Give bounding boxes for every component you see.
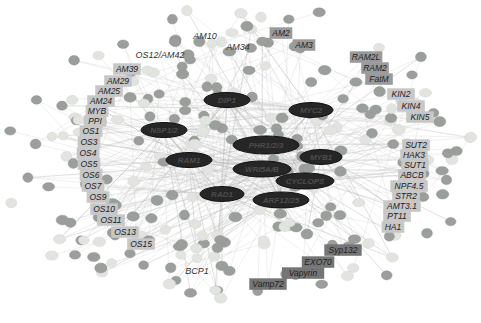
gene-label: RAM2L [350, 51, 383, 63]
network-node [196, 127, 209, 137]
gene-label: OS12/AM42 [135, 50, 184, 60]
gene-label: AM25 [95, 85, 123, 97]
gene-label: KIN4 [397, 100, 425, 112]
gene-label-text: KIN4 [402, 101, 421, 111]
gene-label-text: AM39 [115, 64, 138, 74]
network-node [67, 95, 78, 104]
network-node [160, 225, 170, 234]
gene-label-text: RAM2 [363, 63, 387, 73]
gene-label-text: Syp132 [329, 245, 358, 255]
hub-node-label: ARF12/25 [262, 196, 300, 205]
gene-label-text: BCP1 [185, 266, 209, 276]
gene-label-text: AMT3.1 [386, 201, 417, 211]
network-node [169, 37, 180, 46]
network-node [316, 280, 328, 288]
hub-node-label: DIP1 [218, 96, 236, 105]
network-node [451, 147, 463, 156]
gene-label-text: AM24 [89, 96, 112, 106]
gene-label: RAM2 [361, 62, 389, 74]
gene-label: AM10 [192, 31, 217, 41]
network-node [167, 14, 177, 24]
gene-label-text: OS15 [130, 239, 152, 249]
gene-label: OS4 [77, 147, 100, 159]
network-node [370, 105, 382, 114]
gene-label-text: OS5 [80, 159, 97, 169]
gene-label-text: AM34 [225, 42, 250, 52]
network-node [127, 212, 139, 221]
network-node [210, 286, 221, 294]
gene-label-text: PPI [88, 116, 102, 126]
network-node [341, 271, 353, 280]
gene-label-text: OS7 [84, 181, 101, 191]
gene-label-text: OS3 [80, 137, 97, 147]
hub-node-label: MYB1 [310, 153, 333, 162]
network-node [141, 162, 152, 171]
network-node [436, 190, 448, 200]
network-node [301, 229, 313, 239]
gene-label-text: Vapyrin [289, 268, 318, 278]
gene-label-text: OS4 [79, 148, 96, 158]
network-node [229, 212, 242, 222]
network-node [180, 98, 191, 107]
gene-label-text: OS9 [89, 192, 106, 202]
network-node [212, 243, 223, 252]
network-node [141, 66, 153, 74]
network-node [283, 218, 295, 227]
network-node [95, 263, 107, 273]
network-node [6, 198, 17, 208]
gene-label-text: OS13 [114, 227, 136, 237]
network-node [388, 140, 399, 149]
network-node [436, 167, 449, 176]
network-node [284, 15, 295, 24]
network-node [145, 112, 155, 122]
network-node [47, 132, 57, 141]
network-node [43, 183, 55, 191]
network-node [179, 106, 190, 114]
network-node [348, 263, 359, 272]
gene-label-text: OS11 [100, 215, 121, 225]
network-node [88, 252, 101, 261]
network-node [445, 217, 456, 225]
gene-label: Vapyrin [282, 267, 324, 279]
network-node [465, 132, 476, 142]
network-node [215, 236, 226, 244]
network-node [57, 101, 68, 110]
network-node [58, 132, 68, 140]
network-node [334, 211, 346, 220]
network-node [258, 236, 269, 245]
network-node [254, 125, 267, 134]
gene-label: FatM [365, 73, 393, 85]
gene-label: AM2 [270, 27, 293, 39]
network-node [111, 115, 124, 124]
network-node [56, 215, 69, 225]
gene-label: SUT1 [401, 159, 429, 171]
gene-label: AMT3.1 [383, 200, 420, 212]
edge [317, 121, 390, 122]
gene-label-text: KIN5 [411, 112, 430, 122]
gene-label-text: AM29 [106, 76, 129, 86]
network-node [68, 159, 78, 169]
network-figure: DIP1MYC2NSP1/2PHR1/2/3RAM1MYB1WRI5A/BCYC… [0, 0, 481, 323]
network-node [30, 139, 41, 149]
gene-label: KIN2 [387, 88, 415, 100]
gene-label-text: Vamp72 [252, 279, 284, 289]
gene-label-text: AM3 [294, 40, 313, 50]
network-node [139, 261, 149, 270]
network-node [434, 117, 446, 127]
network-node [387, 104, 397, 114]
network-node [241, 21, 253, 31]
gene-label-text: AM2 [271, 28, 290, 38]
network-node [31, 96, 42, 105]
network-node [257, 37, 269, 46]
hub-node-label: MYC2 [300, 106, 323, 115]
hub-node-label: RAM1 [178, 156, 201, 165]
network-node [256, 12, 267, 22]
network-node [169, 114, 180, 123]
network-node [166, 190, 178, 200]
network-node [318, 65, 331, 75]
hub-node-label: WRI5A/B [245, 165, 279, 174]
network-node [374, 43, 385, 52]
network-node [69, 55, 80, 65]
network-node [306, 77, 317, 86]
gene-label: BCP1 [185, 266, 209, 276]
